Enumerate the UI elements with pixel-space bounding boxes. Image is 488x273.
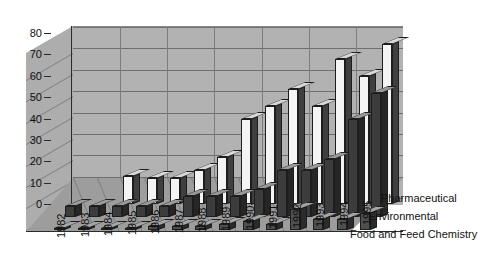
series-legend: PharmaceuticalEnvironmentalFood and Feed… <box>0 0 488 273</box>
series-label-food-and-feed-chemistry: Food and Feed Chemistry <box>350 228 477 240</box>
chart-3d-grouped-bar: 01020304050607080 1982198319841985198619… <box>0 0 488 273</box>
series-label-environmental: Environmental <box>368 210 438 222</box>
series-label-pharmaceutical: Pharmaceutical <box>381 192 457 204</box>
